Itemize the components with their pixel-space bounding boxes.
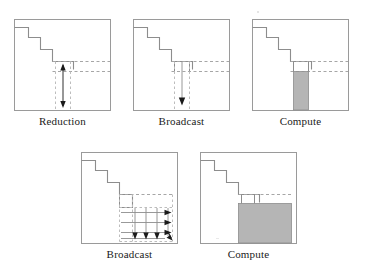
scan-speck	[257, 11, 259, 13]
matrix-panel-compute-icon	[252, 19, 349, 111]
shaded-column	[294, 72, 309, 111]
panel-broadcast-top: Broadcast	[133, 19, 230, 111]
matrix-panel-compute-block-icon	[200, 152, 297, 244]
scan-speck	[216, 238, 219, 239]
caption-compute-top: Compute	[252, 115, 349, 127]
caption-broadcast-bottom: Broadcast	[81, 248, 178, 260]
panel-reduction: Reduction	[14, 19, 111, 111]
panel-compute-top: Compute	[252, 19, 349, 111]
caption-broadcast-top: Broadcast	[133, 115, 230, 127]
caption-compute-bottom: Compute	[200, 248, 297, 260]
matrix-panel-reduction-icon	[14, 19, 111, 111]
caption-reduction: Reduction	[14, 115, 111, 127]
factorization-phases-figure: Reduction Broadcast	[0, 0, 367, 275]
matrix-panel-broadcast-grid-icon	[81, 152, 178, 244]
panel-compute-bottom: Compute	[200, 152, 297, 244]
shaded-trailing-block	[239, 204, 292, 244]
panel-broadcast-bottom: Broadcast	[81, 152, 178, 244]
matrix-panel-broadcast-icon	[133, 19, 230, 111]
